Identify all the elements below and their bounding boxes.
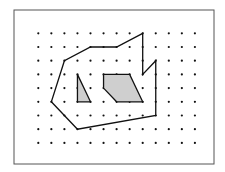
grid-dot — [50, 60, 52, 62]
grid-dot — [194, 73, 196, 75]
grid-dot — [37, 101, 39, 103]
grid-dot — [76, 32, 78, 34]
grid-dot — [168, 101, 170, 103]
grid-dot — [116, 142, 118, 144]
grid-dot — [142, 128, 144, 130]
grid-dot — [63, 87, 65, 89]
grid-dot — [155, 46, 157, 48]
grid-dot — [194, 142, 196, 144]
grid-dot — [102, 142, 104, 144]
grid-dot — [168, 142, 170, 144]
grid-dot — [181, 142, 183, 144]
grid-dot — [155, 128, 157, 130]
grid-dot — [194, 32, 196, 34]
grid-dot — [168, 46, 170, 48]
grid-dot — [37, 114, 39, 116]
grid-dot — [116, 114, 118, 116]
grid-dot — [50, 87, 52, 89]
grid-dot — [37, 73, 39, 75]
grid-dot — [194, 128, 196, 130]
grid-dot — [129, 142, 131, 144]
grid-dot — [181, 60, 183, 62]
grid-dot — [142, 114, 144, 116]
grid-dot — [37, 128, 39, 130]
grid-dot — [168, 87, 170, 89]
grid-dot — [142, 142, 144, 144]
grid-dot — [63, 32, 65, 34]
grid-dot — [129, 128, 131, 130]
grid-dot — [37, 60, 39, 62]
grid-dot — [89, 73, 91, 75]
grid-dot — [102, 114, 104, 116]
grid-dot — [116, 32, 118, 34]
grid-dot — [181, 101, 183, 103]
grid-dot — [181, 114, 183, 116]
grid-dot — [116, 128, 118, 130]
grid-dot — [63, 142, 65, 144]
grid-dot — [76, 46, 78, 48]
grid-dot — [129, 60, 131, 62]
grid-dot — [181, 87, 183, 89]
grid-dot — [50, 46, 52, 48]
grid-dot — [89, 60, 91, 62]
grid-dot — [50, 114, 52, 116]
grid-dot — [63, 128, 65, 130]
grid-dot — [129, 32, 131, 34]
grid-dot — [181, 32, 183, 34]
grid-dot — [50, 128, 52, 130]
grid-dot — [181, 73, 183, 75]
grid-dot — [89, 128, 91, 130]
grid-dot — [194, 60, 196, 62]
grid-dot — [89, 32, 91, 34]
grid-dot — [102, 60, 104, 62]
grid-dot — [37, 32, 39, 34]
grid-dot — [50, 73, 52, 75]
grid-dot — [129, 46, 131, 48]
grid-dot — [181, 46, 183, 48]
grid-dot — [168, 32, 170, 34]
grid-dot — [63, 73, 65, 75]
grid-dot — [194, 114, 196, 116]
grid-dot — [168, 128, 170, 130]
grid-dot — [89, 142, 91, 144]
grid-dot — [129, 114, 131, 116]
grid-dot — [89, 114, 91, 116]
grid-dot — [37, 46, 39, 48]
grid-dot — [168, 73, 170, 75]
grid-dot — [76, 114, 78, 116]
grid-dot — [50, 142, 52, 144]
grid-dot — [63, 46, 65, 48]
grid-dot — [168, 114, 170, 116]
grid-dot — [102, 128, 104, 130]
shaded-pentagon — [104, 74, 143, 101]
grid-dot — [116, 60, 118, 62]
grid-dot — [142, 87, 144, 89]
grid-dot — [89, 87, 91, 89]
grid-dot — [37, 87, 39, 89]
grid-dot — [63, 101, 65, 103]
grid-dot — [50, 32, 52, 34]
grid-dot — [194, 46, 196, 48]
grid-dot — [102, 32, 104, 34]
grid-dot — [181, 128, 183, 130]
grid-dot — [155, 142, 157, 144]
grid-dot — [155, 32, 157, 34]
grid-dot — [194, 101, 196, 103]
dot-grid-diagram — [0, 0, 225, 172]
grid-dot — [76, 142, 78, 144]
grid-dot — [168, 60, 170, 62]
grid-dot — [76, 60, 78, 62]
grid-dot — [194, 87, 196, 89]
shaded-triangle — [77, 74, 90, 101]
grid-dot — [37, 142, 39, 144]
grid-dot — [102, 101, 104, 103]
